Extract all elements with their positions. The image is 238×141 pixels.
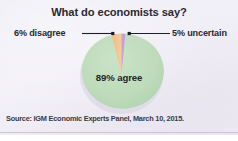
pie-label-uncertain: 5% uncertain: [172, 28, 227, 38]
pie-chart-figure: What do economists say?: [0, 0, 238, 141]
source-note: Source: IGM Economic Experts Panel, Marc…: [6, 114, 184, 123]
leader-dot-uncertain: [128, 32, 131, 35]
chart-title: What do economists say?: [0, 6, 238, 18]
leader-dot-disagree: [111, 32, 114, 35]
bottom-margin: [0, 135, 238, 141]
pie-label-agree: 89% agree: [0, 72, 238, 83]
bottom-divider: [0, 132, 238, 133]
pie-label-disagree: 6% disagree: [14, 28, 65, 38]
